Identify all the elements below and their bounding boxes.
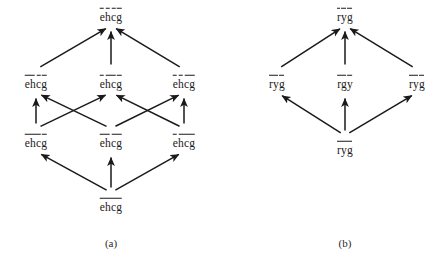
- lattice-node-b-m3: ryg: [409, 72, 425, 91]
- edge-a-m3-to-a-top: [116, 29, 180, 67]
- lattice-node-a-b3: ehcg: [173, 131, 196, 150]
- node-label: ehcg: [100, 79, 123, 91]
- lattice-node-a-b2: ehcg: [100, 131, 123, 150]
- lattice-node-b-m1: ryg: [269, 72, 285, 91]
- edge-a-bot-to-a-b3: [115, 154, 178, 190]
- node-label: ryg: [269, 79, 285, 91]
- edge-b-m1-to-b-top: [281, 29, 340, 67]
- node-label: ehcg: [173, 79, 196, 91]
- node-label: ehcg: [100, 138, 123, 150]
- edge-a-m1-to-a-top: [40, 29, 106, 67]
- edge-b-bot-to-b-m1: [282, 96, 341, 133]
- edge-b-m3-to-b-top: [350, 29, 413, 67]
- lattice-node-b-m2: rgy: [337, 72, 353, 91]
- edge-a-b2-to-a-m3: [115, 95, 178, 126]
- edge-a-b1-to-a-m2: [41, 95, 106, 126]
- caption-panel-b: (b): [339, 237, 352, 249]
- lattice-node-a-top: ehcg: [100, 5, 123, 24]
- node-label: ehcg: [100, 202, 123, 214]
- node-label: ryg: [409, 79, 425, 91]
- edge-a-b2-to-a-m1: [41, 95, 106, 126]
- edge-b-bot-to-b-m3: [349, 96, 412, 133]
- lattice-node-b-top: ryg: [337, 5, 353, 24]
- node-label: rgy: [337, 79, 353, 91]
- edge-a-bot-to-a-b1: [41, 154, 106, 190]
- node-label: ehcg: [173, 138, 196, 150]
- lattice-node-a-bot: ehcg: [100, 195, 123, 214]
- node-label: ryg: [337, 145, 353, 157]
- lattice-node-a-m3: ehcg: [173, 72, 196, 91]
- figure-root: ehcgehcgehcgehcgehcgehcgehcgehcgrygrygrg…: [0, 0, 441, 260]
- lattice-node-a-m1: ehcg: [25, 72, 48, 91]
- lattice-node-b-bot: ryg: [337, 138, 353, 157]
- node-label: ehcg: [25, 79, 48, 91]
- lattice-node-a-b1: ehcg: [25, 131, 48, 150]
- lattice-node-a-m2: ehcg: [100, 72, 123, 91]
- edge-a-b3-to-a-m2: [116, 95, 179, 126]
- node-label: ryg: [337, 12, 353, 24]
- lattice-edges: [0, 0, 441, 260]
- caption-panel-a: (a): [105, 237, 117, 249]
- node-label: ehcg: [100, 12, 123, 24]
- node-label: ehcg: [25, 138, 48, 150]
